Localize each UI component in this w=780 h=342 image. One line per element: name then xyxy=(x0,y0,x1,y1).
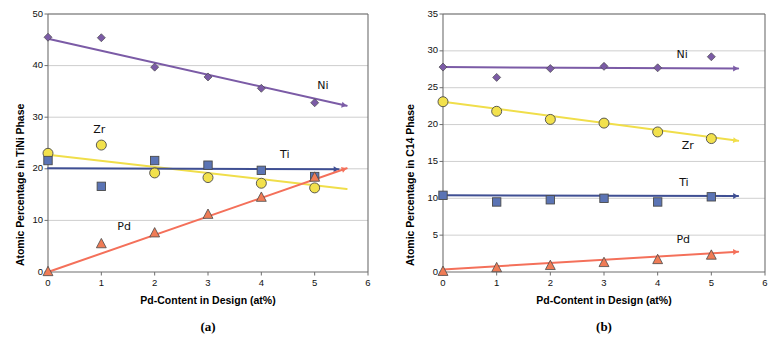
series-pd xyxy=(443,249,738,269)
gridlines xyxy=(48,14,368,220)
series-pd xyxy=(48,167,347,272)
x-tick-label: 6 xyxy=(755,277,775,288)
y-tick-label: 35 xyxy=(408,8,438,19)
y-tick-label: 5 xyxy=(408,229,438,240)
axes xyxy=(440,14,766,276)
series-ni xyxy=(48,39,347,108)
x-tick-label: 1 xyxy=(91,277,111,288)
series-zr xyxy=(443,102,738,143)
figure-two-panel-charts: Atomic Percentage in TiNi Phase Pd-Conte… xyxy=(0,0,780,342)
x-tick-label: 0 xyxy=(433,277,453,288)
panel-a: Atomic Percentage in TiNi Phase Pd-Conte… xyxy=(0,0,390,342)
chart-b-caption: (b) xyxy=(574,319,634,335)
x-tick-label: 4 xyxy=(648,277,668,288)
x-tick-label: 3 xyxy=(594,277,614,288)
chart-a-x-axis-label: Pd-Content in Design (at%) xyxy=(18,294,398,306)
chart-b-x-axis-label: Pd-Content in Design (at%) xyxy=(413,294,780,306)
series-annotation-ti: Ti xyxy=(280,148,289,161)
x-tick-label: 0 xyxy=(38,277,58,288)
y-tick-label: 40 xyxy=(13,59,43,70)
y-tick-label: 20 xyxy=(408,118,438,129)
y-tick-label: 0 xyxy=(408,266,438,277)
chart-a-caption: (a) xyxy=(178,319,238,335)
axes xyxy=(45,14,369,276)
panel-b: Atomic Percentage in C14 Phase Pd-Conten… xyxy=(390,0,780,342)
x-tick-label: 1 xyxy=(487,277,507,288)
x-tick-label: 5 xyxy=(701,277,721,288)
y-tick-label: 0 xyxy=(13,266,43,277)
markers-ti xyxy=(44,156,319,190)
series-annotation-zr: Zr xyxy=(682,139,694,152)
y-tick-label: 30 xyxy=(13,111,43,122)
markers-ti xyxy=(439,191,716,206)
x-tick-label: 3 xyxy=(198,277,218,288)
x-tick-label: 2 xyxy=(540,277,560,288)
series-annotation-ni: Ni xyxy=(317,79,328,92)
x-tick-label: 6 xyxy=(358,277,378,288)
y-tick-label: 15 xyxy=(408,155,438,166)
x-tick-label: 4 xyxy=(251,277,271,288)
y-tick-label: 50 xyxy=(13,8,43,19)
series-annotation-ni: Ni xyxy=(676,48,687,61)
markers-zr xyxy=(43,140,320,193)
x-tick-label: 5 xyxy=(305,277,325,288)
chart-b-canvas xyxy=(390,0,780,342)
y-tick-label: 30 xyxy=(408,44,438,55)
chart-a-canvas xyxy=(0,0,390,342)
series-ni xyxy=(443,66,738,72)
y-tick-label: 25 xyxy=(408,81,438,92)
y-tick-label: 20 xyxy=(13,162,43,173)
chart-a-y-axis-label: Atomic Percentage in TiNi Phase xyxy=(14,104,26,266)
y-tick-label: 10 xyxy=(13,214,43,225)
y-tick-label: 10 xyxy=(408,192,438,203)
series-annotation-pd: Pd xyxy=(676,233,690,246)
markers-ni xyxy=(44,33,319,107)
series-annotation-ti: Ti xyxy=(679,176,688,189)
series-annotation-pd: Pd xyxy=(117,220,131,233)
x-tick-label: 2 xyxy=(145,277,165,288)
series-annotation-zr: Zr xyxy=(93,123,105,136)
